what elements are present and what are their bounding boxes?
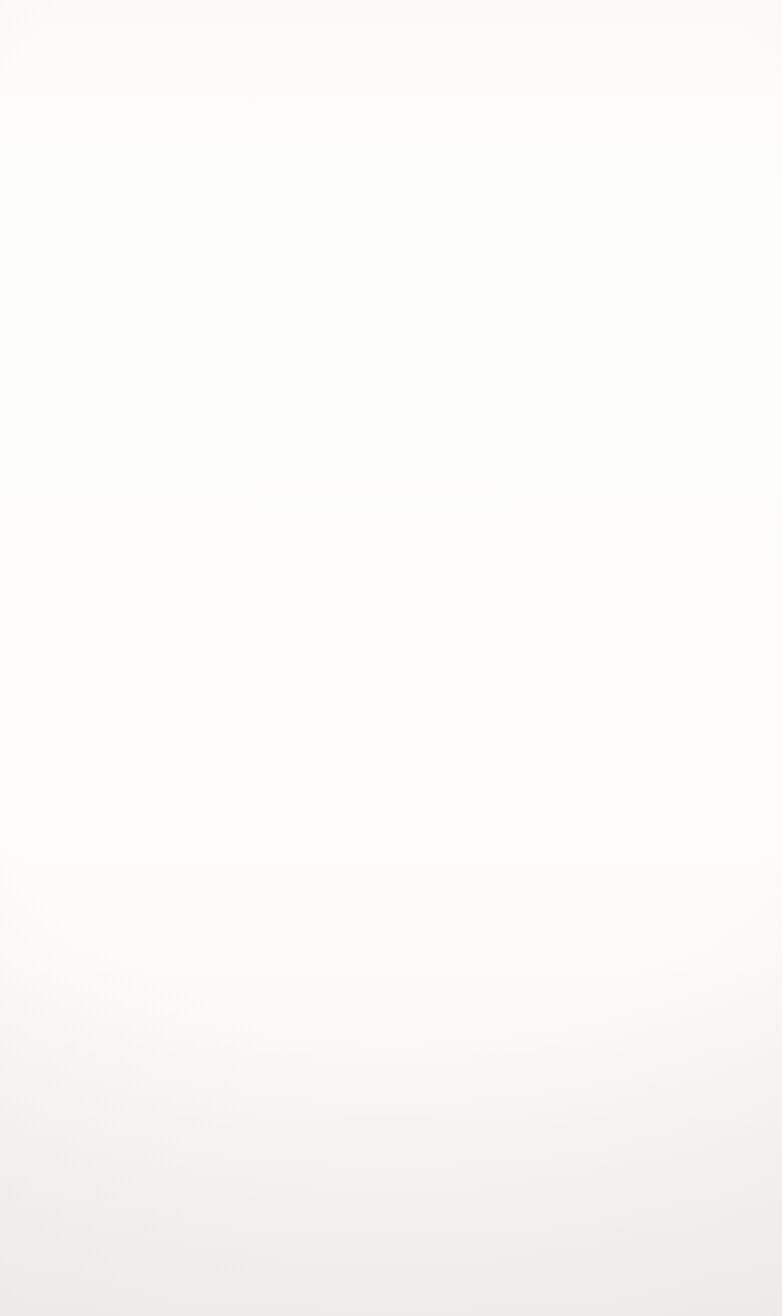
label-integuments: Integuments	[632, 441, 740, 463]
label-seed-coat: Seed coat	[570, 1203, 659, 1225]
anther	[373, 61, 437, 116]
stage-two-cell	[188, 626, 248, 698]
figure-page: Structure of the Mature Seed during the …	[0, 0, 782, 1316]
stage-heart-embryo	[518, 826, 620, 1026]
label-terminal-cell: Terminal cell	[293, 632, 403, 654]
label-suspensor-mid: Suspensor	[430, 775, 524, 797]
label-cotyledons: Cotyledons	[104, 996, 203, 1018]
flower-illustration	[108, 60, 716, 547]
mature-seed	[291, 978, 505, 1314]
shoot-apex-point	[391, 1097, 401, 1111]
leader-proembryo	[372, 744, 414, 800]
root-apex-point	[387, 1185, 405, 1207]
label-shoot-apex: Shoot apex	[104, 1053, 155, 1097]
stage-early-proembryo	[275, 771, 315, 876]
label-endosperm-nucleus: Endosperm nucleus	[632, 256, 733, 300]
style	[506, 60, 552, 196]
basal-cell-nucleus	[211, 668, 221, 678]
terminal-cell-nucleus	[205, 638, 214, 647]
label-basal-cell-lower: Basal cell	[222, 903, 306, 925]
seed-stalk-base	[382, 1272, 414, 1314]
seed-stalk	[366, 1224, 430, 1274]
arrow-twocell-to-proembryo	[214, 710, 284, 806]
label-zygote-stage: Zygote	[166, 551, 226, 573]
stage-torpedo-embryo	[626, 999, 702, 1174]
label-basal-cell-upper: Basal cell	[293, 663, 377, 685]
seed-apex-collar	[372, 978, 424, 1010]
arrow-to-torpedo-stage	[576, 888, 660, 976]
label-endosperm-seed: Endosperm	[570, 1255, 671, 1277]
label-proembryo: Proembryo	[340, 727, 436, 749]
label-zygote-top: Zygote	[632, 341, 692, 363]
label-ovule: Ovule	[632, 195, 683, 217]
label-suspensor-seed: Suspensor	[104, 1248, 198, 1270]
endosperm-nucleus-dot	[523, 306, 534, 317]
stage-zygote	[238, 549, 268, 575]
label-root-apex: Root apex	[104, 1131, 147, 1175]
